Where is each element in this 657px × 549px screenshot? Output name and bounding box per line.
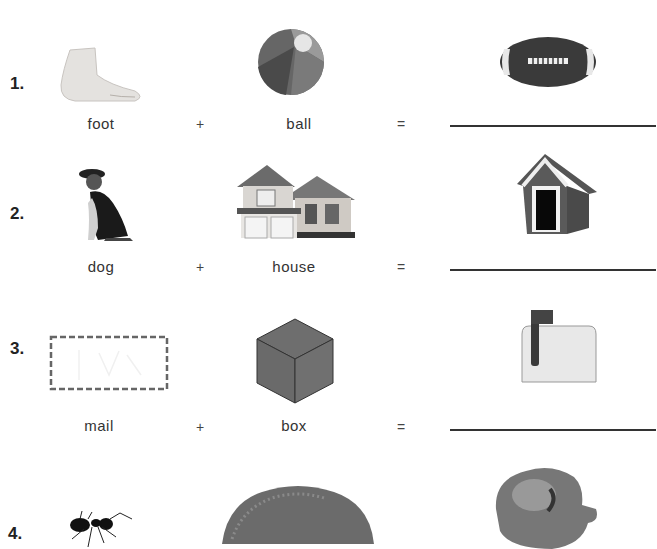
word-dog: dog (51, 258, 151, 275)
mailbox-image (517, 310, 602, 385)
plus-sign: + (196, 259, 204, 275)
football-image (498, 35, 598, 90)
envelope-image (49, 335, 171, 391)
equals-sign: = (397, 259, 405, 275)
anthill-image (492, 465, 602, 549)
ant-image (58, 511, 138, 549)
problem-number: 3. (10, 339, 24, 359)
word-foot: foot (51, 115, 151, 132)
answer-line[interactable] (450, 429, 656, 431)
word-ball: ball (249, 115, 349, 132)
answer-line[interactable] (450, 269, 656, 271)
problem-number: 4. (8, 524, 22, 544)
plus-sign: + (196, 419, 204, 435)
problem-number: 2. (10, 204, 24, 224)
cube-box-image (255, 317, 335, 405)
doghouse-image (517, 152, 597, 236)
word-box: box (244, 417, 344, 434)
house-image (237, 162, 355, 240)
beach-ball-image (256, 27, 326, 97)
word-house: house (244, 258, 344, 275)
foot-image (55, 45, 145, 105)
word-mail: mail (49, 417, 149, 434)
answer-line[interactable] (450, 125, 656, 127)
plus-sign: + (196, 116, 204, 132)
equals-sign: = (397, 419, 405, 435)
hill-image (222, 484, 374, 544)
dog-image (78, 168, 138, 243)
problem-number: 1. (10, 74, 24, 94)
equals-sign: = (397, 116, 405, 132)
